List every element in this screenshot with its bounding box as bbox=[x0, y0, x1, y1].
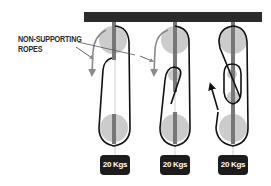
non-supporting-ropes-label: NON-SUPPORTING ROPES bbox=[18, 35, 82, 55]
bottom-axle-1 bbox=[112, 114, 116, 144]
pulley-system-3 bbox=[211, 22, 248, 160]
top-axle-2 bbox=[173, 22, 177, 92]
weight-box-1: 20 Kgs bbox=[100, 155, 130, 175]
annotation-pointer-2 bbox=[140, 56, 152, 61]
weight-label-2: 20 Kgs bbox=[163, 160, 187, 169]
weight-box-3: 20 Kgs bbox=[218, 155, 248, 175]
bottom-axle-2 bbox=[173, 112, 177, 144]
pulley-system-2 bbox=[154, 22, 190, 160]
weight-box-2: 20 Kgs bbox=[160, 155, 190, 175]
ceiling-beam bbox=[84, 12, 262, 22]
pulley-system-1 bbox=[92, 22, 130, 160]
top-axle-1 bbox=[112, 22, 116, 60]
pull-rope-arrow-3 bbox=[211, 86, 218, 110]
weight-label-3: 20 Kgs bbox=[221, 160, 245, 169]
label-line-1: NON-SUPPORTING bbox=[18, 35, 82, 45]
label-line-2: ROPES bbox=[18, 45, 82, 55]
weight-label-1: 20 Kgs bbox=[103, 160, 127, 169]
